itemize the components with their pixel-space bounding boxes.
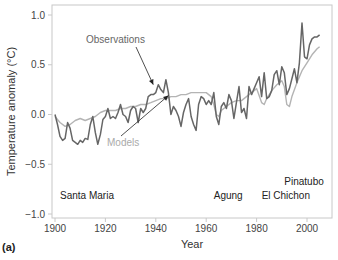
y-axis: −1.0−0.50.00.51.0 xyxy=(25,10,52,220)
y-tick-label: 0.0 xyxy=(31,109,45,120)
models-label: Models xyxy=(107,137,139,148)
x-axis: 190019201940196019802000 xyxy=(44,218,319,234)
x-tick-label: 1960 xyxy=(195,223,218,234)
volcano-label-santa-maria: Santa Maria xyxy=(60,190,114,201)
x-axis-title: Year xyxy=(181,238,204,250)
observations-label: Observations xyxy=(86,34,145,45)
y-tick-label: 0.5 xyxy=(31,59,45,70)
annotation-arrow-line xyxy=(136,47,153,85)
x-tick-label: 1920 xyxy=(94,223,117,234)
y-tick-label: 1.0 xyxy=(31,10,45,21)
models-series-line xyxy=(55,47,320,127)
x-tick-label: 1980 xyxy=(245,223,268,234)
y-axis-title: Temperature anomaly (°C) xyxy=(5,47,17,176)
y-tick-label: −1.0 xyxy=(25,209,45,220)
x-tick-label: 1940 xyxy=(145,223,168,234)
x-tick-label: 1900 xyxy=(44,223,67,234)
panel-label: (a) xyxy=(2,241,15,253)
temperature-anomaly-chart: −1.0−0.50.00.51.0 1900192019401960198020… xyxy=(0,0,338,260)
annotation-arrow-line xyxy=(121,96,168,136)
volcano-label-pinatubo: Pinatubo xyxy=(284,176,324,187)
volcano-label-el-chichon: El Chichon xyxy=(262,190,310,201)
volcano-label-agung: Agung xyxy=(214,190,243,201)
x-tick-label: 2000 xyxy=(296,223,319,234)
y-tick-label: −0.5 xyxy=(25,159,45,170)
